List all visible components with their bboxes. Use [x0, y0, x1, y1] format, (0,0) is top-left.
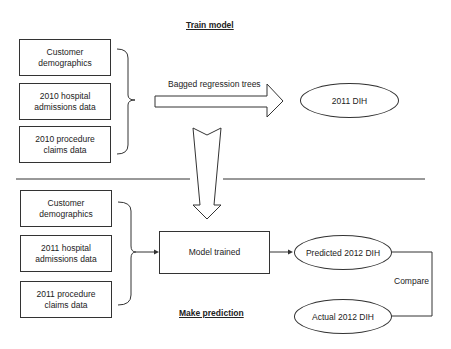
model-trained-box: Model trained	[159, 231, 270, 274]
predicted-2012-dih: Predicted 2012 DIH	[294, 235, 392, 270]
predict-inputs-brace	[118, 202, 136, 305]
compare-label: Compare	[394, 276, 429, 286]
predict-input-procedure-claims: 2011 procedure claims data	[20, 281, 112, 318]
train-input-procedure-claims: 2010 procedure claims data	[19, 126, 111, 163]
output-2011-dih: 2011 DIH	[300, 83, 399, 118]
train-inputs-brace	[117, 49, 135, 154]
bagged-regression-trees-label: Bagged regression trees	[168, 79, 261, 89]
make-prediction-title: Make prediction	[179, 308, 244, 318]
train-input-customer-demographics: Customer demographics	[19, 39, 111, 76]
arrowhead-icon	[288, 250, 293, 255]
train-input-hospital-admissions: 2010 hospital admissions data	[19, 83, 111, 120]
predict-input-customer-demographics: Customer demographics	[20, 190, 112, 227]
train-model-title: Train model	[186, 20, 234, 30]
down-block-arrow	[193, 128, 221, 219]
predict-input-hospital-admissions: 2011 hospital admissions data	[20, 235, 112, 272]
actual-2012-dih: Actual 2012 DIH	[294, 299, 392, 334]
